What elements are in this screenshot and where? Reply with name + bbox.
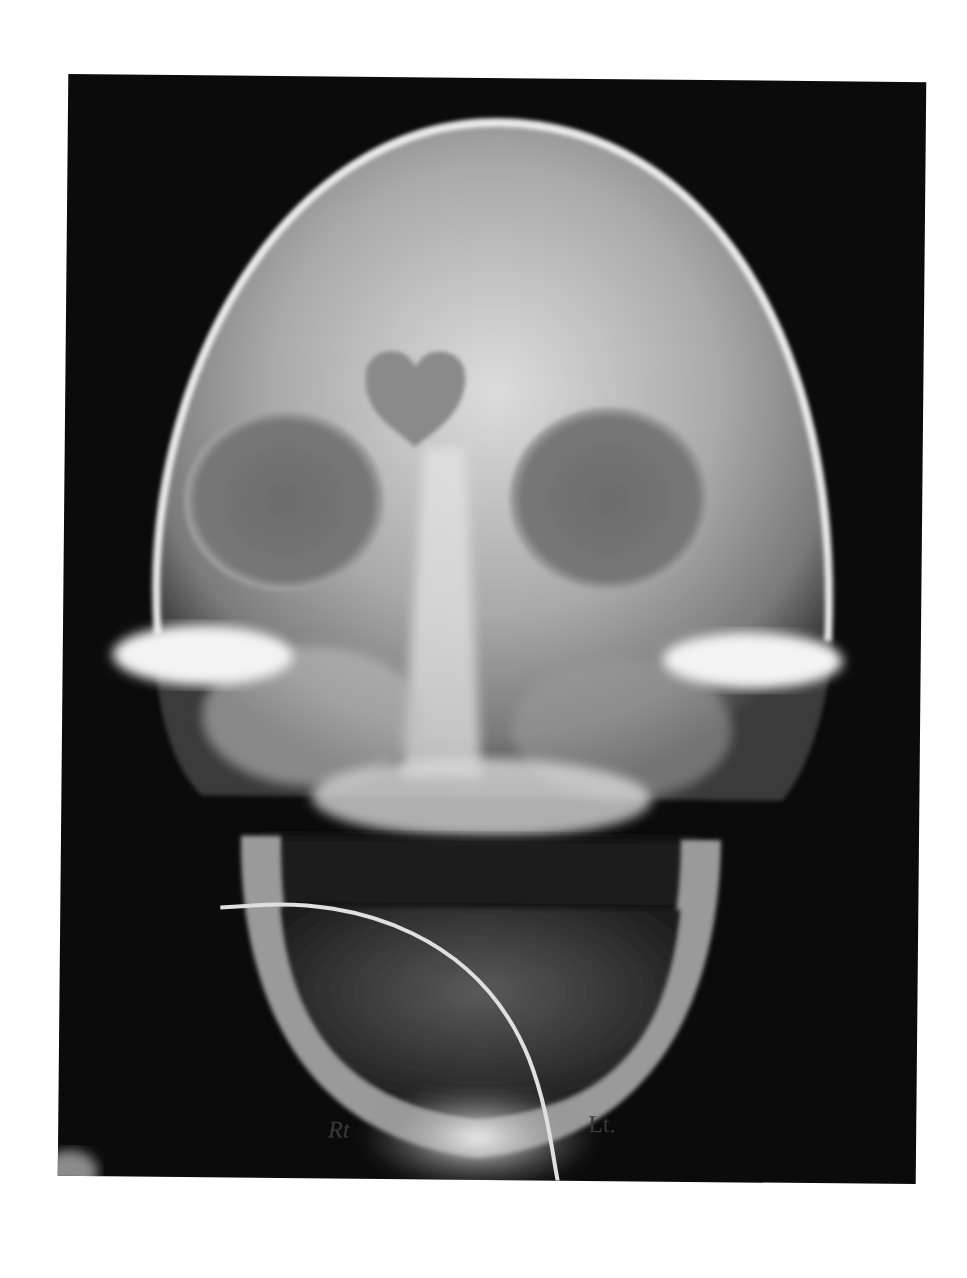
skull-xray-illustration	[58, 74, 927, 1184]
right-side-marker: Rt	[328, 1116, 350, 1143]
left-side-marker: Lt.	[588, 1111, 616, 1138]
radiograph-film: Rt Lt.	[58, 74, 927, 1184]
